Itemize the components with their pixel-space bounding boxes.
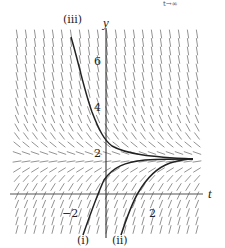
tick-t-2: 2: [149, 208, 156, 219]
slope-segment: [88, 200, 91, 207]
slope-segment: [194, 142, 200, 147]
slope-segment: [124, 107, 127, 115]
slope-segment: [86, 176, 91, 182]
slope-segment: [79, 56, 80, 64]
slope-segment: [43, 217, 45, 225]
slope-segment: [42, 115, 45, 122]
slope-segment: [176, 142, 182, 147]
slope-segment: [59, 176, 64, 182]
slope-segment: [61, 56, 62, 64]
slope-segment: [16, 64, 18, 72]
slope-segment: [196, 30, 197, 38]
slope-segment: [133, 47, 134, 55]
slope-segment: [61, 64, 63, 72]
slope-segment: [123, 115, 126, 122]
slope-segment: [70, 30, 71, 38]
slope-segment: [114, 192, 117, 199]
slope-segment: [77, 168, 84, 172]
slope-segment: [187, 30, 188, 38]
slope-segment: [169, 226, 171, 234]
slope-segment: [103, 161, 111, 162]
slope-segment: [186, 133, 191, 139]
slope-segment: [168, 133, 173, 139]
slope-segment: [160, 81, 162, 89]
slope-segment: [60, 124, 64, 131]
curve-iii: [71, 37, 193, 159]
slope-segment: [115, 47, 116, 55]
slope-segment: [122, 142, 128, 147]
slope-segment: [142, 64, 144, 72]
slope-segment: [79, 217, 81, 225]
slope-segment: [85, 152, 93, 155]
slope-segment: [49, 161, 57, 162]
slope-segment: [113, 176, 118, 182]
slope-segment: [131, 176, 136, 182]
slope-segment: [169, 200, 172, 207]
slope-segment: [61, 30, 62, 38]
slope-segment: [34, 209, 37, 217]
slope-segment: [177, 192, 180, 199]
slope-segment: [185, 142, 191, 147]
slope-segment: [142, 107, 145, 115]
slope-segment: [159, 192, 162, 199]
slope-segment: [187, 98, 189, 106]
slope-segment: [140, 142, 146, 147]
slope-segment: [196, 56, 197, 64]
slope-segment: [34, 56, 35, 64]
slope-segment: [142, 209, 145, 217]
slope-segment: [177, 133, 182, 139]
slope-segment: [51, 192, 54, 199]
slope-segment: [23, 168, 30, 172]
slope-segment: [16, 217, 18, 225]
slope-segment: [168, 192, 171, 199]
slope-segment: [194, 168, 201, 172]
slope-segment: [151, 73, 153, 81]
slope-segment: [16, 90, 18, 98]
slope-segment: [151, 98, 153, 106]
slope-segment: [196, 200, 199, 207]
slope-segment: [23, 176, 28, 182]
slope-segment: [168, 184, 172, 191]
slope-segment: [187, 73, 189, 81]
slope-segment: [40, 152, 48, 155]
slope-segment: [187, 39, 188, 47]
slope-segment: [52, 209, 55, 217]
slope-segment: [169, 98, 171, 106]
slope-segment: [142, 90, 144, 98]
slope-segment: [124, 81, 126, 89]
curve-label-ii: (ii): [112, 235, 128, 246]
slope-segment: [195, 124, 199, 131]
slope-segment: [196, 90, 198, 98]
slope-segment: [133, 81, 135, 89]
slope-segment: [16, 73, 18, 81]
slope-segment: [67, 161, 75, 162]
slope-segment: [149, 142, 155, 147]
slope-segment: [185, 176, 190, 182]
slope-segment: [43, 98, 45, 106]
slope-segment: [42, 184, 46, 191]
slope-segment: [150, 192, 153, 199]
slope-segment: [140, 168, 147, 172]
slope-segment: [103, 152, 111, 155]
slope-segment: [132, 115, 135, 122]
slope-segment: [52, 30, 53, 38]
slope-segment: [187, 226, 189, 234]
slope-segment: [15, 192, 18, 199]
slope-segment: [51, 133, 56, 139]
slope-segment: [124, 39, 125, 47]
slope-segment: [187, 209, 190, 217]
slope-segment: [79, 39, 80, 47]
slope-segment: [52, 73, 54, 81]
slope-segment: [43, 107, 46, 115]
slope-segment: [70, 81, 72, 89]
slope-segment: [115, 39, 116, 47]
slope-segment: [124, 47, 125, 55]
slope-segment: [124, 56, 125, 64]
slope-segment: [177, 184, 181, 191]
slope-segment: [77, 142, 83, 147]
slope-segment: [78, 115, 81, 122]
slope-segment: [115, 73, 117, 81]
slope-segment: [169, 217, 171, 225]
slope-segment: [77, 176, 82, 182]
tick-y-4: 4: [94, 102, 101, 113]
